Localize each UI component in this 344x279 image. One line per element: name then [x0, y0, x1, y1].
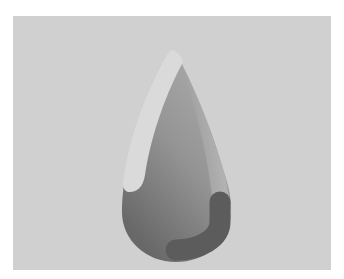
logo-canvas	[0, 0, 344, 279]
water-drop-icon	[0, 0, 344, 279]
